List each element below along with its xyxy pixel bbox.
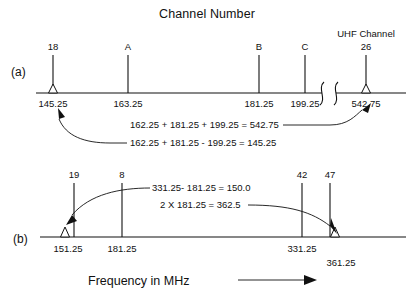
panel-b-label: (b) — [13, 232, 28, 246]
leader-arrowhead-to-145 — [58, 108, 65, 119]
figure-title: Channel Number — [159, 7, 255, 21]
channel-label: 8 — [119, 169, 124, 180]
panel-a-label: (a) — [11, 65, 26, 79]
leader-curve-to-361 — [248, 205, 330, 226]
frequency-label: 181.25 — [107, 243, 136, 254]
panel-a-channel-C: C 199.25 — [290, 41, 319, 109]
channel-label: 18 — [48, 41, 59, 52]
channel-wedge-marker — [61, 227, 70, 237]
channel-label: A — [125, 41, 132, 52]
channel-wedge-marker — [331, 227, 340, 237]
frequency-label: 181.25 — [244, 98, 273, 109]
panel-b-channel-47: 47 361.25 — [325, 169, 356, 268]
panel-b-equation-diff: 331.25- 181.25 = 150.0 — [152, 182, 251, 193]
channel-label: 19 — [69, 169, 80, 180]
panel-a-equation-sum: 162.25 + 181.25 + 199.25 = 542.75 — [130, 119, 279, 130]
panel-a-channel-18: 18 145.25 — [38, 41, 67, 109]
panel-a-channel-A: A 163.25 — [113, 41, 142, 109]
panel-a-channel-26: UHF Channel 26 542.75 — [337, 28, 395, 109]
frequency-axis-label: Frequency in MHz — [88, 274, 189, 288]
channel-label: 26 — [361, 41, 372, 52]
panel-b-equation-double: 2 X 181.25 = 362.5 — [160, 199, 241, 210]
panel-b-channel-8: 8 181.25 — [107, 169, 136, 254]
frequency-label: 331.25 — [287, 243, 316, 254]
panel-a-channel-B: B 181.25 — [244, 41, 273, 109]
panel-b-channel-19: 19 151.25 — [53, 169, 82, 254]
frequency-label: 151.25 — [53, 243, 82, 254]
channel-frequency-diagram: Channel Number (a) 18 145.25 A 163.25 — [0, 0, 415, 295]
channel-label: 42 — [297, 169, 308, 180]
channel-wedge-marker — [362, 84, 371, 93]
panel-a-equation-diff: 162.25 + 181.25 - 199.25 = 145.25 — [130, 137, 276, 148]
frequency-label: 199.25 — [290, 98, 319, 109]
leader-curve-to-151 — [72, 188, 150, 215]
uhf-channel-caption: UHF Channel — [337, 28, 395, 39]
channel-label: 47 — [325, 169, 336, 180]
figure-root: Channel Number (a) 18 145.25 A 163.25 — [0, 0, 415, 295]
frequency-axis-label-group: Frequency in MHz — [88, 274, 317, 288]
panel-a: (a) 18 145.25 A 163.25 B — [11, 28, 406, 148]
frequency-label: 163.25 — [113, 98, 142, 109]
frequency-label: 145.25 — [38, 98, 67, 109]
panel-b: (b) 19 151.25 8 181.25 42 331.25 — [13, 169, 406, 268]
channel-label: C — [302, 41, 309, 52]
channel-wedge-marker — [49, 84, 58, 93]
leader-arrowhead-to-151 — [66, 215, 77, 225]
frequency-direction-arrowhead — [304, 275, 317, 285]
leader-line-to-uhf — [283, 110, 362, 125]
leader-curve-to-145 — [59, 119, 127, 143]
channel-label: B — [256, 41, 262, 52]
frequency-label: 361.25 — [326, 257, 355, 268]
